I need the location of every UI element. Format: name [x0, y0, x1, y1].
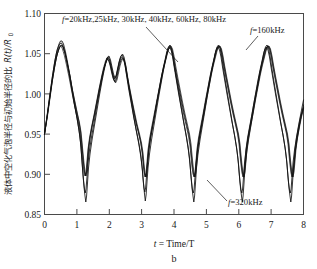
x-axis-title: t = Time/T — [154, 239, 195, 249]
y-axis-title-subscript: 0 — [7, 32, 14, 36]
x-axis-tick-labels: 0 1 2 3 4 5 6 7 8 — [42, 220, 306, 230]
x-tick-label: 6 — [236, 220, 241, 230]
x-tick-label: 0 — [42, 220, 47, 230]
y-tick-label: 0.95 — [24, 130, 41, 140]
leader-line-low-frequency — [146, 27, 178, 62]
x-tick-label: 1 — [75, 220, 80, 230]
plot-frame — [45, 14, 304, 215]
y-axis-title: 液体中空化气泡半径与初始半径的比 R(t)/R 0 — [3, 32, 14, 195]
x-axis-tickmarks — [45, 209, 304, 215]
leader-line-160khz — [246, 36, 258, 50]
figure-container: 1.10 1.05 1.00 0.95 0.90 0.85 0 1 2 3 4 … — [0, 0, 317, 269]
y-axis-tick-labels: 1.10 1.05 1.00 0.95 0.90 0.85 — [24, 9, 41, 220]
cavitation-radius-chart: 1.10 1.05 1.00 0.95 0.90 0.85 0 1 2 3 4 … — [0, 0, 317, 269]
annotation-160khz-text: =160kHz — [252, 25, 284, 35]
annotation-320khz: f=320kHz — [228, 197, 263, 207]
annotation-160khz: f=160kHz — [250, 25, 285, 35]
annotation-low-frequency-text: =20kHz,25kHz, 30kHz, 40kHz, 60kHz, 80kHz — [64, 14, 226, 24]
annotation-320khz-text: =320kHz — [230, 197, 262, 207]
leader-line-320khz — [207, 180, 227, 201]
figure-caption: b — [172, 253, 177, 264]
x-tick-label: 7 — [269, 220, 274, 230]
y-tick-label: 1.00 — [24, 90, 41, 100]
annotation-low-frequency-group: f=20kHz,25kHz, 30kHz, 40kHz, 60kHz, 80kH… — [62, 14, 226, 24]
x-tick-label: 5 — [204, 220, 209, 230]
x-tick-label: 3 — [139, 220, 144, 230]
y-tick-label: 0.85 — [24, 210, 41, 220]
svg-text:液体中空化气泡半径与初始半径的比 R(t)/: 液体中空化气泡半径与初始半径的比 R(t)/R 0 — [3, 32, 14, 195]
y-axis-title-symbol: R(t)/R — [3, 39, 13, 63]
x-tick-label: 4 — [172, 220, 177, 230]
y-tick-label: 0.90 — [24, 170, 41, 180]
x-tick-label: 8 — [301, 220, 306, 230]
y-tick-label: 1.05 — [24, 49, 41, 59]
y-axis-title-cn: 液体中空化气泡半径与初始半径的比 — [3, 67, 13, 195]
y-tick-label: 1.10 — [24, 9, 41, 19]
curve-320khz — [45, 41, 304, 202]
x-axis-title-rest: = Time/T — [156, 239, 194, 249]
x-tick-label: 2 — [107, 220, 112, 230]
